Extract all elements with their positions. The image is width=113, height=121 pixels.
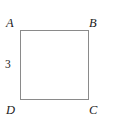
square-outline bbox=[21, 31, 89, 100]
side-length-label-ad: 3 bbox=[5, 59, 11, 71]
geometry-figure: A B C D 3 bbox=[0, 0, 113, 121]
vertex-label-d: D bbox=[6, 104, 15, 117]
vertex-label-b: B bbox=[89, 17, 97, 30]
vertex-label-c: C bbox=[89, 104, 97, 117]
vertex-label-a: A bbox=[6, 17, 14, 30]
